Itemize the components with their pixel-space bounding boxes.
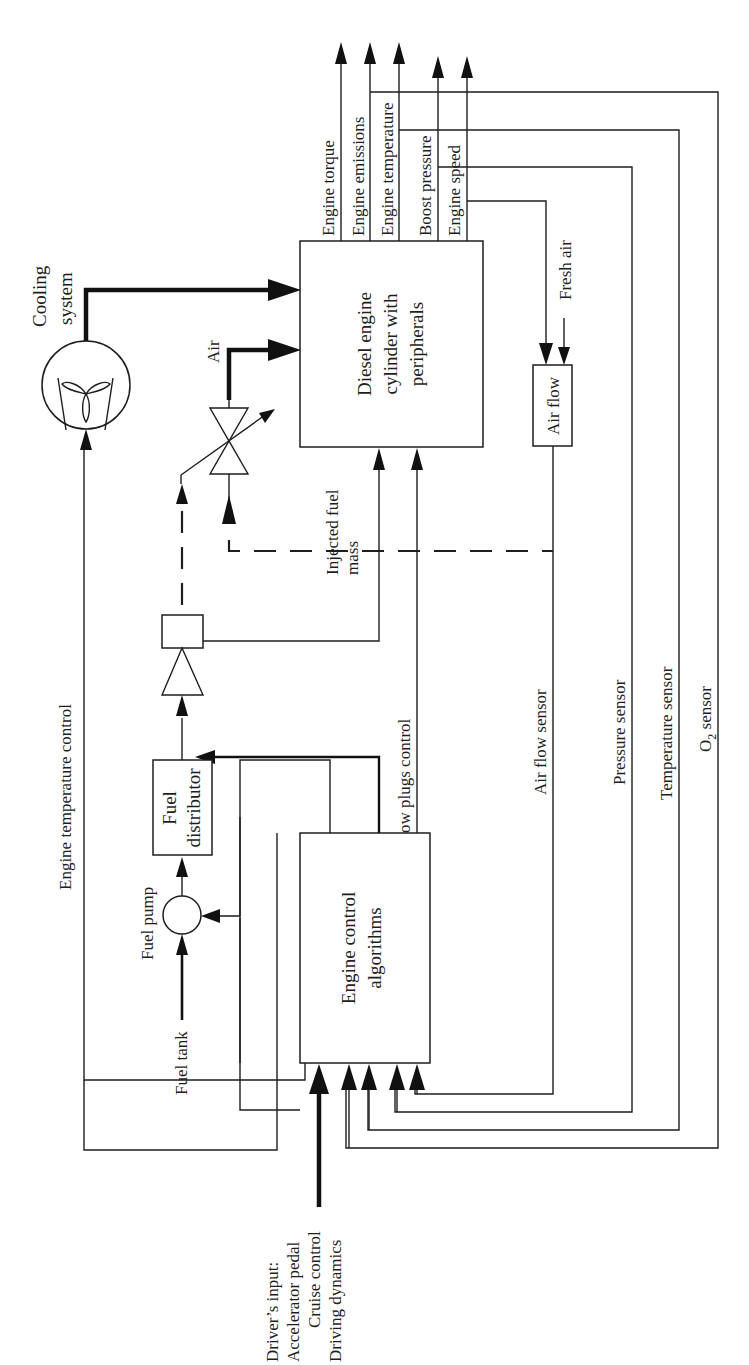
- arrowhead-up-icon: [341, 1064, 357, 1090]
- pump-control-loop: [240, 918, 300, 1110]
- temperature-sensor-label: Temperature sensor: [657, 666, 676, 800]
- fuel-injection-time-line: [212, 757, 379, 833]
- fuel-supply: Fuel distributor Fuel pump Fuel tank: [84, 695, 330, 1150]
- arrowhead-left-icon: [201, 909, 220, 923]
- drivers-input-label-line3: Cruise control: [305, 1231, 324, 1328]
- arrowhead-up-icon: [222, 495, 236, 524]
- valve-icon-top: [210, 408, 248, 441]
- arrowhead-down-icon: [539, 343, 553, 365]
- glow-plugs-control-label: Glow plugs control: [395, 718, 414, 850]
- diesel-engine-label-line3: peripherals: [406, 302, 427, 386]
- arrowhead-up-icon: [80, 429, 92, 450]
- air-flow-sensor-label: Air flow sensor: [531, 689, 550, 795]
- pump-control-line: [220, 817, 240, 1063]
- drivers-input-label-line2: Accelerator pedal: [284, 1241, 303, 1362]
- arrowhead-right-icon: [268, 339, 301, 361]
- cooling-system: Cooling system Engine temperature contro…: [29, 265, 305, 1080]
- air-valve: Air: [181, 339, 301, 524]
- cooling-fan-circle: [42, 341, 130, 429]
- cooling-system-label-line1: Cooling: [29, 265, 50, 327]
- arrowhead-up-icon: [389, 1064, 405, 1090]
- o2-sensor-label-rest: sensor: [696, 686, 715, 734]
- dashed-control-line: [229, 540, 553, 551]
- arrowhead-up-icon: [432, 56, 444, 78]
- arrowhead-up-icon: [409, 1064, 425, 1090]
- fresh-air-label: Fresh air: [556, 240, 575, 300]
- valve-icon-bottom: [210, 441, 248, 474]
- valve-actuator-arrow-icon: [259, 409, 275, 423]
- drivers-input-label-line4: Driving dynamics: [326, 1240, 345, 1362]
- engine-control-label-line2: algorithms: [364, 907, 385, 988]
- cooling-to-engine-line: [86, 290, 272, 341]
- output-label-temperature: Engine temperature: [378, 102, 397, 236]
- injected-fuel-mass-label-line1: Injected fuel: [323, 489, 342, 575]
- o2-sensor-label-o: O: [696, 740, 715, 752]
- drivers-input-label-line1: Driver’s input:: [263, 1262, 282, 1362]
- pressure-sensor-label: Pressure sensor: [610, 679, 629, 785]
- diesel-engine-label-line2: cylinder with: [380, 293, 401, 394]
- fuel-pump-label: Fuel pump: [138, 887, 157, 960]
- arrowhead-up-icon: [335, 42, 347, 64]
- output-label-torque: Engine torque: [319, 140, 338, 236]
- engine-temperature-control-label: Engine temperature control: [56, 704, 75, 890]
- arrowhead-up-icon: [176, 695, 188, 716]
- arrowhead-up-icon: [176, 934, 188, 955]
- arrowhead-up-icon: [393, 42, 405, 64]
- arrowhead-up-icon: [309, 1064, 329, 1094]
- injected-fuel-mass-path: Injected fuel mass Glow plugs control: [176, 448, 553, 850]
- arrowhead-up-icon: [364, 42, 376, 64]
- arrowhead-up-icon: [373, 448, 385, 470]
- injector-block: [162, 615, 203, 648]
- injected-fuel-mass-label-line2: mass: [343, 541, 362, 575]
- air-flow-block-label: Air flow: [544, 376, 563, 435]
- o2-sensor-label: O2 sensor: [696, 686, 719, 752]
- arrowhead-up-icon: [411, 448, 423, 470]
- arrowhead-down-icon: [558, 347, 570, 365]
- arrowhead-up-icon: [176, 484, 188, 504]
- diesel-engine-label-line1: Diesel engine: [354, 292, 375, 396]
- output-label-emissions: Engine emissions: [349, 117, 368, 236]
- arrowhead-up-icon: [361, 1064, 377, 1090]
- fuel-tank-label: Fuel tank: [172, 1031, 191, 1095]
- diesel-engine-control-diagram: Diesel engine cylinder with peripherals …: [0, 0, 749, 1365]
- injector-amplifier-icon: [162, 648, 203, 695]
- engine-outputs: Engine torque Engine emissions Engine te…: [319, 42, 473, 241]
- output-label-speed: Engine speed: [445, 144, 464, 236]
- arrowhead-right-icon: [268, 279, 301, 301]
- fuel-distributor-label-line2: distributor: [183, 768, 204, 848]
- arrowhead-up-icon: [461, 56, 473, 78]
- cooling-system-label-line2: system: [55, 272, 76, 325]
- engine-control-label-line1: Engine control: [338, 892, 359, 1004]
- arrowhead-up-icon: [176, 857, 188, 877]
- output-label-boost: Boost pressure: [416, 135, 435, 236]
- air-label: Air: [204, 340, 223, 363]
- air-to-engine-line: [229, 350, 272, 400]
- fuel-pump-frame-line: [84, 833, 277, 1150]
- fuel-distributor-label-line1: Fuel: [159, 791, 180, 825]
- fuel-pump-icon: [163, 896, 201, 934]
